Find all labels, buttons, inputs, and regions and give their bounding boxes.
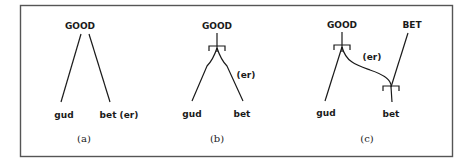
panel-c-left-branch [325, 47, 342, 101]
morphology-diagram: GOOD gud bet (er) (a) GOOD (er) gud bet … [0, 0, 473, 161]
panel-b-root-label: GOOD [202, 21, 232, 31]
panel-c-caption: (c) [360, 133, 374, 144]
panel-b-left-branch [192, 48, 217, 101]
panel-c-bet-branch [391, 33, 408, 87]
panel-c-root-label: GOOD [327, 20, 357, 30]
panel-a-right-branch [89, 34, 110, 102]
panel-b-caption: (b) [210, 133, 224, 144]
panel-a-left-branch [61, 34, 81, 102]
panel-a-root-label: GOOD [65, 21, 95, 31]
panel-a-caption: (a) [77, 133, 91, 144]
panel-c-left-leaf: gud [316, 108, 335, 118]
panel-c-right-leaf: bet [383, 109, 401, 119]
panel-b-right-leaf: bet [234, 109, 252, 119]
panel-c-bet-stem [391, 87, 392, 102]
panel-c: GOOD BET (er) gud bet (c) [316, 20, 422, 144]
panel-b: GOOD (er) gud bet (b) [182, 21, 255, 144]
panel-b-left-leaf: gud [182, 109, 201, 119]
panel-b-suffix-label: (er) [237, 70, 256, 80]
panel-a-right-leaf: bet (er) [100, 110, 139, 120]
panel-c-second-root-label: BET [402, 20, 422, 30]
panel-a-left-leaf: gud [54, 110, 73, 120]
panel-c-suffix-label: (er) [363, 52, 382, 62]
panel-a: GOOD gud bet (er) (a) [54, 21, 138, 144]
